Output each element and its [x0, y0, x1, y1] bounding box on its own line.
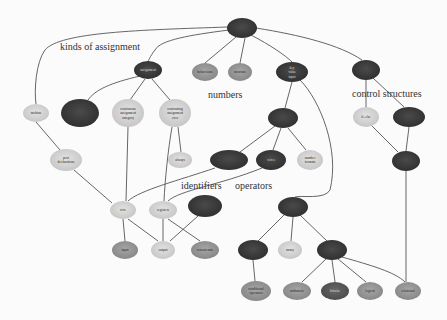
node-contrasting[interactable]: contrastingassignmentover: [159, 99, 191, 127]
edge-connector: [285, 82, 292, 108]
node-label: output: [159, 248, 168, 252]
node-dark-cond[interactable]: [238, 240, 268, 260]
node-number-format[interactable]: numberformats: [297, 150, 323, 170]
node-label: formats: [305, 160, 316, 164]
node-label: input: [288, 75, 295, 79]
node-ellipse: [317, 240, 347, 260]
node-label: contrasting: [167, 107, 183, 111]
node-ellipse: [278, 197, 308, 217]
edge-connector: [300, 215, 327, 241]
node-ellipse: [61, 99, 99, 127]
node-mobius[interactable]: mobius: [23, 104, 49, 122]
node-continuous[interactable]: continuousassignmentcategory: [112, 99, 144, 127]
node-label: wires: [267, 158, 275, 162]
node-ellipse: [352, 60, 380, 80]
node-label: number: [305, 156, 317, 160]
node-unary[interactable]: unary: [278, 241, 302, 259]
edge-connector: [123, 219, 125, 241]
node-label: structure: [234, 70, 247, 74]
edge-connector: [256, 28, 362, 60]
node-output[interactable]: output: [151, 241, 175, 259]
node-ellipse: [393, 107, 425, 127]
edge-connector: [295, 80, 333, 197]
edge-connector: [36, 122, 60, 150]
node-label: key: [289, 66, 294, 70]
nodes-layer: assignmentbehavioursstructurekeyvalueinp…: [23, 18, 425, 301]
edge-connector: [205, 37, 236, 63]
node-cs-node[interactable]: [352, 60, 380, 80]
node-behaviours[interactable]: behaviours: [192, 63, 218, 81]
node-ellipse: [268, 108, 298, 128]
node-if-else[interactable]: if..else: [353, 107, 379, 127]
node-label: bitwise: [330, 289, 341, 293]
node-relational[interactable]: relational: [395, 282, 421, 300]
edge-connector: [74, 170, 112, 203]
node-label: assignment: [140, 68, 156, 72]
concept-map-canvas: assignmentbehavioursstructurekeyvalueinp…: [0, 0, 447, 320]
section-label-identifiers: identifiers: [181, 180, 222, 191]
node-assignment[interactable]: assignment: [134, 61, 162, 79]
node-label: value: [288, 70, 296, 74]
node-ellipse: [188, 195, 222, 217]
node-label: wire: [120, 208, 127, 212]
node-register[interactable]: registers: [149, 201, 177, 219]
node-arithmetic[interactable]: arithmetic: [283, 282, 311, 300]
node-dark-left[interactable]: [61, 99, 99, 127]
node-label: logical: [365, 289, 375, 293]
node-label: input: [121, 248, 128, 252]
node-conditional-op[interactable]: conditionaloperators: [241, 281, 271, 301]
node-structure[interactable]: structure: [228, 63, 252, 81]
node-ellipse: [210, 150, 248, 170]
node-root[interactable]: [227, 18, 257, 38]
edge-connector: [126, 127, 128, 201]
node-dark-ident[interactable]: [210, 150, 248, 170]
edge-connector: [332, 260, 335, 282]
node-ellipse: [392, 151, 420, 171]
node-key-value[interactable]: keyvalueinput: [276, 62, 308, 82]
edge-connector: [178, 127, 181, 152]
node-dark-mid[interactable]: [268, 108, 298, 128]
node-label: registers: [157, 208, 169, 212]
edge-connector: [168, 219, 200, 241]
node-label: if..else: [361, 115, 371, 119]
section-label-numbers: numbers: [208, 89, 243, 100]
node-ellipse: [227, 18, 257, 38]
node-label: conditional: [248, 287, 264, 291]
edge-connector: [148, 30, 229, 62]
section-label-operators: operators: [235, 180, 272, 191]
section-label-kinds: kinds of assignment: [60, 41, 140, 52]
section-label-control: control structures: [352, 88, 422, 99]
edge-connector: [288, 128, 306, 150]
node-post-decl[interactable]: postdeclarations: [50, 149, 82, 171]
edge-connector: [291, 217, 293, 241]
node-always[interactable]: always: [168, 152, 192, 168]
node-wire[interactable]: wire: [110, 201, 136, 219]
edge-connector: [253, 260, 255, 281]
node-dark-binary[interactable]: [317, 240, 347, 260]
node-dark-op[interactable]: [188, 195, 222, 217]
edge-connector: [273, 128, 281, 150]
node-input[interactable]: input: [112, 241, 138, 259]
node-label: category: [122, 116, 134, 120]
node-label: always: [175, 158, 185, 162]
node-label: declarations: [58, 160, 76, 164]
node-bitwise[interactable]: bitwise: [321, 282, 349, 300]
node-cs-dark3[interactable]: [392, 151, 420, 171]
node-label: unary: [286, 248, 294, 252]
node-label: relational: [401, 289, 414, 293]
node-logical[interactable]: logical: [357, 282, 383, 300]
node-cs-dark2[interactable]: [393, 107, 425, 127]
node-label: continuous: [120, 107, 136, 111]
node-concatenate[interactable]: concatenate: [191, 241, 219, 259]
edge-connector: [240, 126, 275, 152]
node-label: assignment: [120, 111, 136, 115]
edge-connector: [371, 125, 398, 152]
node-ellipse: [238, 240, 268, 260]
node-label: over: [172, 116, 179, 120]
node-label: concatenate: [197, 248, 214, 252]
edge-connector: [240, 38, 245, 63]
node-dark-ops2[interactable]: [278, 197, 308, 217]
node-wire-op[interactable]: wires: [256, 150, 286, 170]
node-label: behaviours: [197, 70, 213, 74]
node-label: assignment: [167, 111, 183, 115]
